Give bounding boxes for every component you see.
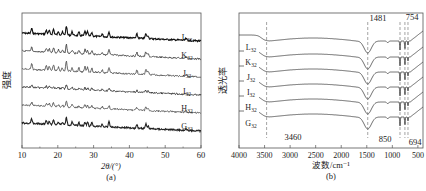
xrd-curves: [22, 27, 201, 132]
ftir-annotations: 34601481850754694: [285, 12, 423, 147]
annotation-694: 694: [409, 137, 423, 147]
x-tick-label: 40: [125, 150, 134, 160]
xrd-x-axis-ticks: 102030405060: [18, 145, 206, 160]
x-tick-label: 3000: [282, 151, 298, 160]
xrd-y-axis-label: 强度: [1, 71, 12, 89]
xrd-caption: (a): [106, 172, 116, 182]
xrd-curve-h: [22, 101, 201, 113]
annotation-1481: 1481: [370, 13, 387, 23]
x-tick-label: 2500: [308, 151, 324, 160]
x-tick-label: 50: [161, 150, 170, 160]
x-tick-label: 60: [197, 150, 206, 160]
figure: 102030405060 L32K32J32I32H32G32 强度 2θ/(°…: [0, 0, 426, 191]
series-label-j: J32: [183, 69, 192, 79]
annotation-850: 850: [379, 134, 392, 144]
annotation-754: 754: [406, 12, 420, 22]
x-tick-label: 4000: [231, 151, 247, 160]
ftir-caption: (b): [326, 171, 336, 181]
ftir-x-axis-label: 波数/cm⁻¹: [312, 160, 350, 170]
xrd-curve-l: [22, 27, 201, 42]
ftir-series-labels: L32K32J32I32H32G32: [244, 42, 259, 129]
x-tick-label: 1000: [384, 151, 400, 160]
x-tick-label: 1500: [359, 151, 375, 160]
series-label-i: I32: [183, 87, 191, 97]
xrd-x-axis-label: 2θ/(°): [101, 161, 121, 171]
xrd-curve-i: [22, 85, 201, 96]
ftir-y-axis-label: 透光率: [217, 67, 228, 94]
xrd-chart-panel: 102030405060 L32K32J32I32H32G32 强度 2θ/(°…: [1, 13, 205, 182]
x-tick-label: 2000: [333, 151, 349, 160]
x-tick-label: 30: [89, 150, 98, 160]
ftir-x-axis-ticks: 4000350030002500200015001000500: [231, 145, 424, 160]
series-label-g: G32: [181, 122, 193, 132]
series-label-k: K32: [181, 51, 193, 61]
annotation-3460: 3460: [285, 132, 302, 142]
x-tick-label: 20: [54, 150, 63, 160]
series-label-h: H32: [181, 104, 193, 114]
x-tick-label: 3500: [257, 151, 273, 160]
xrd-curve-k: [22, 44, 201, 60]
xrd-curve-j: [22, 61, 201, 78]
series-label-l: L32: [182, 33, 193, 43]
x-tick-label: 10: [18, 150, 27, 160]
ftir-chart-panel: L32K32J32I32H32G32 34601481850754694 400…: [217, 12, 424, 181]
x-tick-label: 500: [412, 151, 424, 160]
xrd-curve-g: [22, 118, 201, 132]
xrd-series-labels: L32K32J32I32H32G32: [181, 33, 193, 132]
